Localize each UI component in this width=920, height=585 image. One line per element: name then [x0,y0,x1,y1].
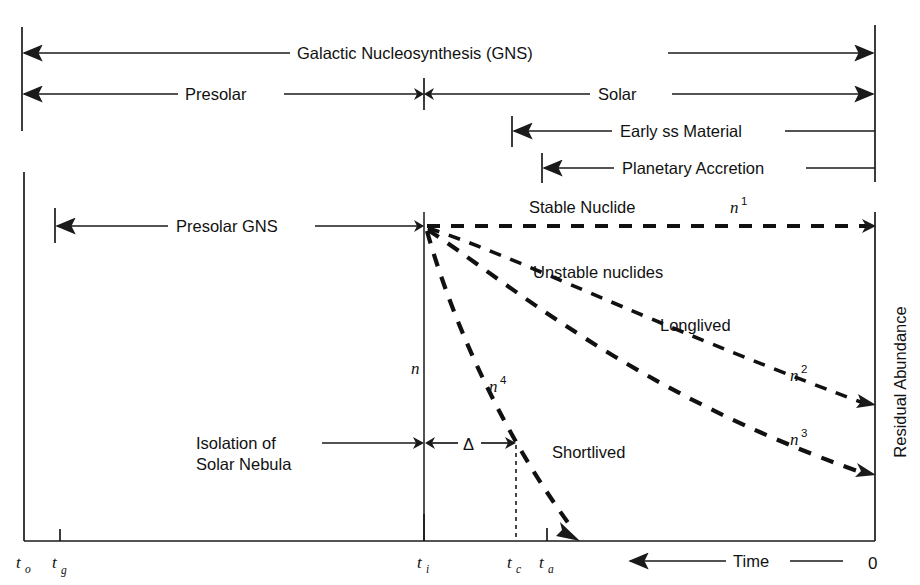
xtick-label-tc-sub: c [516,563,521,575]
xtick-label-ta-base: t [539,553,545,572]
label-n3-superscript: 3 [801,427,807,439]
label-shortlived: Shortlived [552,443,625,461]
diagram-canvas: Galactic Nucleosynthesis (GNS) Presolar … [0,0,920,585]
xtick-label-tg-base: t [52,553,58,572]
xtick-label-ti-sub: i [426,563,429,575]
label-n4-symbol: n [489,377,498,396]
isolation-label-line1: Isolation of [196,434,276,452]
bracket-gns: Galactic Nucleosynthesis (GNS) [24,44,873,62]
time-axis-label: Time [733,552,769,570]
presolar-gns-annotation: Presolar GNS [55,208,424,243]
label-n4-superscript: 4 [500,374,507,386]
xtick-label-to-sub: o [25,563,31,575]
xtick-label-ti-base: t [417,553,423,572]
bracket-label-presolar: Presolar [185,85,247,103]
label-n2-superscript: 2 [801,363,807,375]
delta-symbol-label: Δ [463,435,474,453]
label-n2-symbol: n [790,366,799,385]
curve-n3-arrowhead [855,463,876,477]
label-unstable-nuclides: Unstable nuclides [533,263,663,281]
xtick-label-tc-base: t [507,553,513,572]
x-axis-tick-labels: t o t g t i t c t a [16,553,554,577]
bracket-planetary-accretion: Planetary Accretion [542,153,875,183]
label-n3-symbol: n [790,430,799,449]
label-stable-nuclide: Stable Nuclide [529,198,635,216]
time-axis-annotation: Time 0 [630,552,877,573]
bracket-label-gns: Galactic Nucleosynthesis (GNS) [297,44,533,62]
curve-text-labels: Stable Nuclide n 1 Unstable nuclides Lon… [411,195,807,461]
label-n1-symbol: n [730,198,739,217]
bracket-label-solar: Solar [598,85,637,103]
presolar-gns-label: Presolar GNS [176,217,278,235]
label-longlived: Longlived [660,316,731,334]
xtick-label-ta-sub: a [548,563,554,575]
nucleosynthesis-timeline-figure: Galactic Nucleosynthesis (GNS) Presolar … [0,0,920,585]
time-origin-label: 0 [868,554,877,573]
xtick-label-to-base: t [16,553,22,572]
label-n-plain-symbol: n [411,359,420,378]
bracket-label-planetary: Planetary Accretion [622,159,764,177]
x-axis-ticks [60,514,547,541]
isolation-delta-annotation: Isolation of Solar Nebula Δ [196,434,516,541]
isolation-label-line2: Solar Nebula [196,455,292,473]
label-n1-superscript: 1 [741,195,747,207]
curve-n4-arrowhead [556,522,580,541]
bracket-early-ss-material: Early ss Material [512,116,875,147]
top-bracket-region: Galactic Nucleosynthesis (GNS) Presolar … [22,25,875,183]
xtick-label-tg-sub: g [61,564,67,577]
y-axis-label: Residual Abundance [891,306,909,457]
bracket-presolar-solar: Presolar Solar [24,78,873,110]
bracket-label-early-ss: Early ss Material [620,122,742,140]
